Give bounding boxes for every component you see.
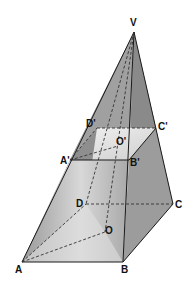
pyramid-diagram: V D' C' O' A' B' D C O A B [0,0,195,293]
label-v: V [130,17,137,28]
label-a-prime: A' [60,155,70,166]
label-c: C [175,199,182,210]
label-d-prime: D' [86,118,96,129]
label-o: O [105,225,113,236]
label-o-prime: O' [116,136,126,147]
label-d: D [76,198,83,209]
label-b-prime: B' [130,157,140,168]
label-a: A [15,264,22,275]
label-b: B [121,264,128,275]
label-c-prime: C' [158,121,168,132]
